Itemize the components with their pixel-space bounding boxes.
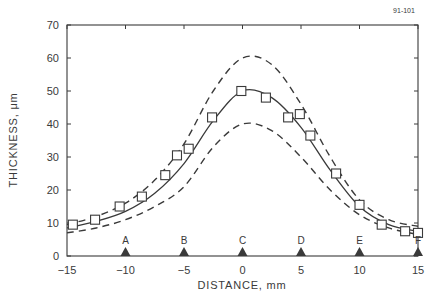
square-marker — [115, 202, 124, 211]
upper-bound-curve — [67, 56, 418, 226]
y-axis-label: THICKNESS, μm — [7, 93, 19, 188]
x-tick-label: 10 — [353, 264, 365, 276]
square-marker — [137, 192, 146, 201]
y-axis-ticks: 010203040506070 — [47, 19, 418, 262]
y-tick-label: 20 — [47, 184, 59, 196]
figure-id-label: 91-101 — [393, 7, 415, 14]
y-tick-label: 30 — [47, 151, 59, 163]
square-marker — [68, 220, 77, 229]
y-tick-label: 10 — [47, 217, 59, 229]
square-marker — [237, 87, 246, 96]
position-label: F — [415, 235, 421, 246]
square-marker — [161, 171, 170, 180]
x-tick-label: −15 — [58, 264, 77, 276]
square-marker — [91, 215, 100, 224]
lower-bound-curve — [67, 123, 418, 234]
x-tick-label: 15 — [412, 264, 424, 276]
x-tick-label: 0 — [239, 264, 245, 276]
x-tick-label: −5 — [178, 264, 191, 276]
square-marker — [208, 113, 217, 122]
square-marker — [401, 227, 410, 236]
y-tick-label: 40 — [47, 118, 59, 130]
square-marker — [172, 151, 181, 160]
triangle-marker-icon — [296, 247, 306, 256]
triangle-marker-icon — [121, 247, 131, 256]
square-marker — [332, 169, 341, 178]
square-marker — [284, 113, 293, 122]
square-marker — [377, 220, 386, 229]
x-tick-label: −10 — [116, 264, 135, 276]
y-tick-label: 50 — [47, 85, 59, 97]
position-label: D — [297, 235, 304, 246]
thickness-vs-distance-chart: 91-101 010203040506070 −15−10−5051015 AB… — [0, 0, 439, 305]
triangle-marker-icon — [238, 247, 248, 256]
triangle-marker-icon — [413, 247, 423, 256]
x-tick-label: 5 — [298, 264, 304, 276]
position-label: C — [239, 235, 246, 246]
square-marker — [306, 131, 315, 140]
x-axis-label: DISTANCE, mm — [198, 279, 287, 291]
position-label: E — [356, 235, 363, 246]
triangle-marker-icon — [355, 247, 365, 256]
y-tick-label: 70 — [47, 19, 59, 31]
square-marker — [295, 110, 304, 119]
y-tick-label: 0 — [53, 250, 59, 262]
square-marker — [184, 144, 193, 153]
position-label: A — [122, 235, 129, 246]
y-tick-label: 60 — [47, 52, 59, 64]
square-marker — [355, 200, 364, 209]
triangle-marker-icon — [179, 247, 189, 256]
square-marker — [261, 93, 270, 102]
position-markers: ABCDEF — [121, 235, 424, 256]
position-label: B — [181, 235, 188, 246]
